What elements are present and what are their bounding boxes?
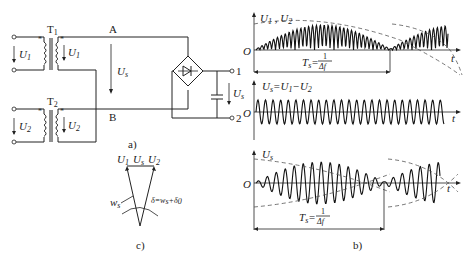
output1-label: U1	[68, 46, 80, 60]
svg-text:Δf: Δf	[318, 62, 328, 71]
top-ylabel: U1 , U2	[260, 12, 292, 26]
caption-b: b)	[353, 239, 363, 252]
us-phasor-label: Us	[133, 153, 144, 167]
svg-text:*: *	[38, 35, 42, 44]
input1-terminal-bottom	[12, 68, 16, 72]
caption-a: a)	[128, 138, 137, 151]
middle-ylabel: Us=U1−U2	[262, 80, 312, 94]
input2-label: U2	[19, 120, 31, 134]
input1-terminal-top	[12, 35, 16, 39]
t1-primary-coil	[44, 42, 46, 64]
diagram-stage: * * T1 U1 U1 * * T2 U2 U2 A B Us	[0, 0, 476, 266]
middle-xlabel: t	[452, 112, 456, 124]
svg-text:1: 1	[323, 52, 327, 61]
top-xlabel: t	[451, 52, 455, 64]
t1-secondary-coil	[56, 42, 58, 64]
top-period-label: Ts=	[302, 56, 319, 70]
output2-label: U2	[68, 119, 80, 133]
middle-origin: O	[243, 107, 251, 119]
node-a-label: A	[109, 23, 117, 35]
bottom-period-label: Ts=	[299, 211, 316, 225]
circuit-diagram: * * T1 U1 U1 * * T2 U2 U2 A B Us	[12, 23, 244, 151]
t2-label: T2	[47, 95, 58, 109]
bottom-ylabel: Us	[262, 148, 273, 162]
top-origin: O	[243, 45, 251, 57]
terminal-1-label: 1	[236, 65, 242, 77]
caption-c: c)	[136, 239, 145, 252]
out-voltage-label: Us	[233, 87, 244, 101]
u1-phasor-label: U1	[117, 153, 129, 167]
terminal-1	[230, 69, 234, 73]
t1-label: T1	[47, 23, 58, 37]
node-b-label: B	[109, 111, 116, 123]
terminal-2-label: 2	[236, 112, 242, 124]
svg-text:1: 1	[321, 207, 325, 216]
diagram-svg: * * T1 U1 U1 * * T2 U2 U2 A B Us	[0, 0, 476, 266]
t2-secondary-coil	[56, 114, 58, 136]
u2-phasor-label: U2	[148, 153, 160, 167]
bottom-xlabel: t	[447, 182, 451, 194]
ws-label: ws	[110, 196, 120, 210]
svg-text:*: *	[38, 107, 42, 116]
phasor-diagram: U1 Us U2 ws δ=ws+δ0 c)	[110, 153, 182, 252]
svg-text:*: *	[60, 35, 64, 44]
bottom-origin: O	[243, 178, 251, 190]
svg-text:*: *	[60, 107, 64, 116]
wire-b	[58, 90, 188, 114]
delta-label: δ=ws+δ0	[151, 196, 182, 206]
diff-voltage-label: Us	[117, 65, 128, 79]
terminal-2	[230, 116, 234, 120]
phasor-u1	[127, 168, 140, 226]
input1-label: U1	[19, 48, 31, 62]
waveforms: U1 , U2 O t Ts= 1 Δf Us=U1−U2 O t Us O t…	[243, 12, 462, 252]
t2-primary-coil	[44, 114, 46, 136]
rotation-arc	[122, 207, 158, 216]
svg-text:Δf: Δf	[316, 217, 326, 226]
top-waveform	[256, 25, 448, 50]
